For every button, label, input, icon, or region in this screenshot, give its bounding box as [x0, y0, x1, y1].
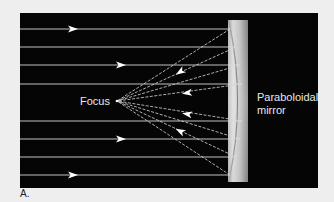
paraboloidal-mirror	[228, 20, 248, 182]
panel-label: A.	[20, 188, 29, 200]
mirror-label-line2: mirror	[257, 104, 317, 117]
mirror-label: Paraboloidal mirror	[257, 91, 317, 117]
focus-label: Focus	[80, 95, 110, 107]
mirror-label-line1: Paraboloidal	[257, 91, 317, 104]
paraboloidal-mirror-diagram: Focus Paraboloidal mirror A.	[0, 0, 334, 202]
focus-point	[116, 100, 119, 103]
